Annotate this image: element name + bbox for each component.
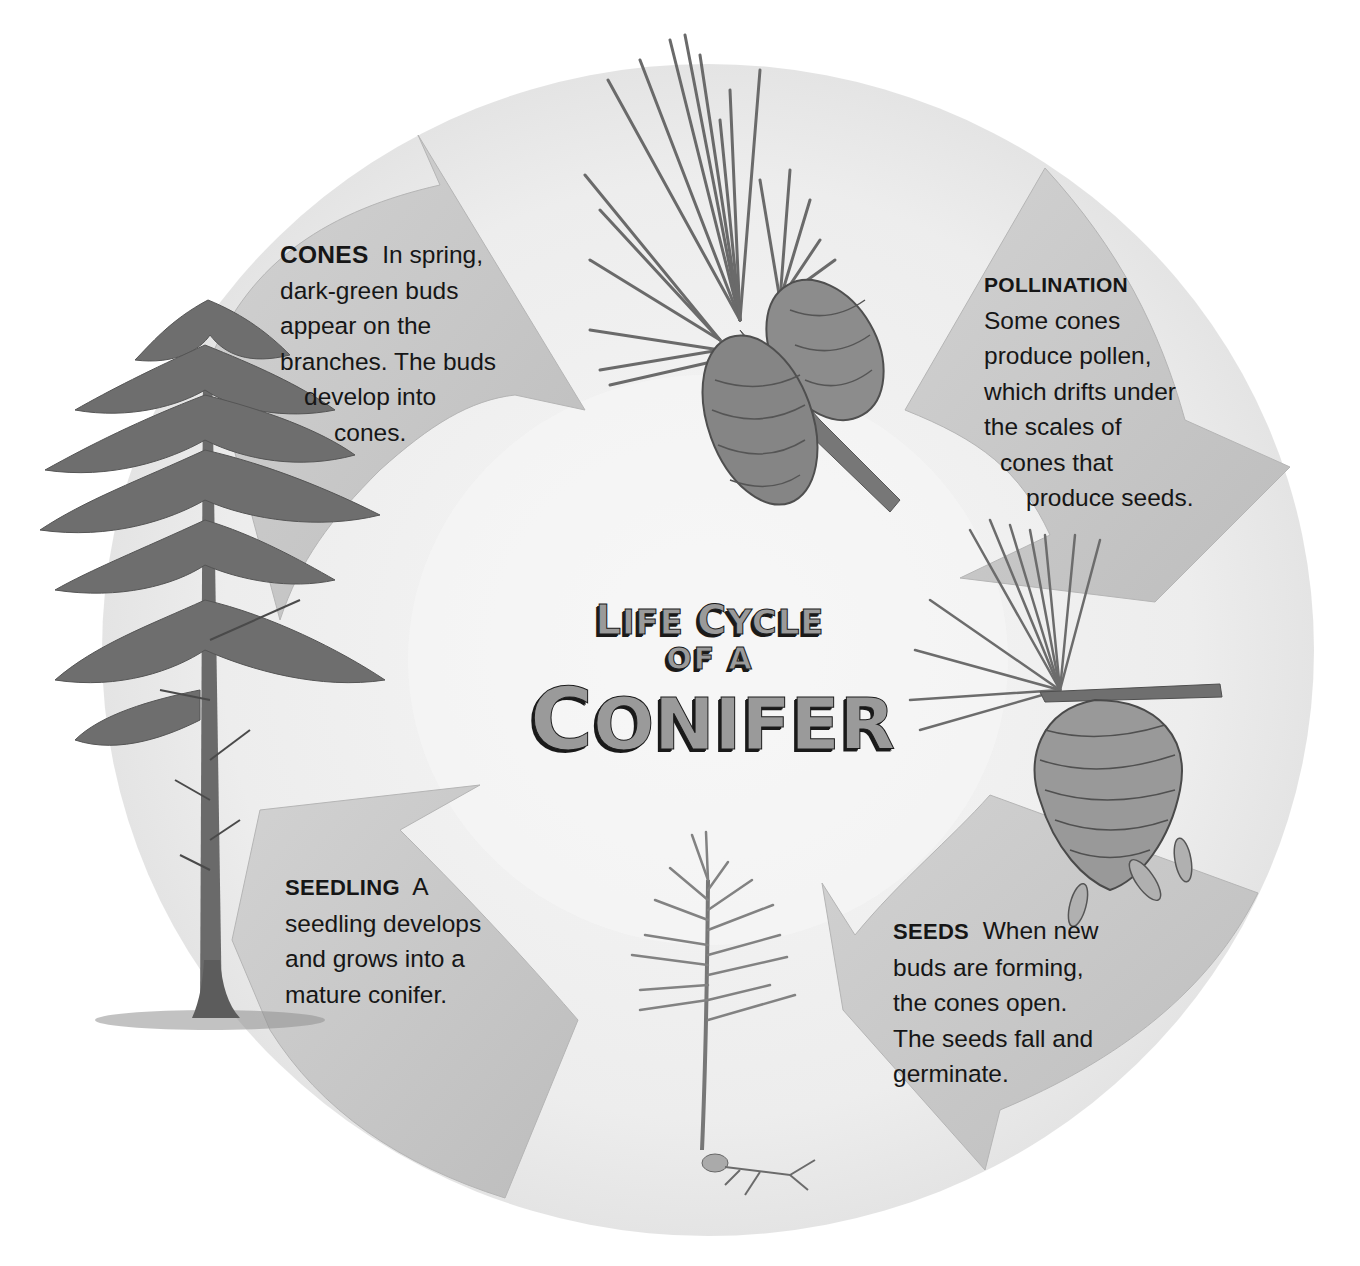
stage-cones-text-line: cones. <box>280 415 496 451</box>
stage-cones-heading: CONES <box>280 241 369 268</box>
title-word: IFE <box>622 602 684 642</box>
stage-seeds-text-line: When new <box>983 917 1099 944</box>
stage-seeds-text-line: buds are forming, <box>893 950 1098 986</box>
stage-pollination-text: POLLINATION Some cones produce pollen, w… <box>984 267 1194 516</box>
stage-seeds-text-line: The seeds fall and <box>893 1021 1098 1057</box>
stage-pollination-heading: POLLINATION <box>984 267 1194 303</box>
title-word: ONIFER <box>593 682 895 766</box>
stage-seeds-text-line: germinate. <box>893 1056 1098 1092</box>
stage-seedling-text-line: and grows into a <box>285 941 481 977</box>
title-cap: C <box>530 669 593 769</box>
diagram-title: LIFE CYCLE OF A CONIFER <box>530 600 890 762</box>
stage-seeds-heading: SEEDS <box>893 919 969 944</box>
title-line-3: CONIFER <box>530 676 890 762</box>
stage-cones-text-line: appear on the <box>280 308 496 344</box>
stage-seeds-text: SEEDS When new buds are forming, the con… <box>893 913 1098 1092</box>
title-line-1: LIFE CYCLE <box>530 600 890 640</box>
stage-pollination-text-line: cones that <box>984 445 1194 481</box>
stage-pollination-text-line: produce seeds. <box>984 480 1194 516</box>
stage-seedling-line-1: SEEDLING A <box>285 869 481 906</box>
stage-cones-text-line: In spring, <box>382 241 483 268</box>
title-cap: L <box>595 597 622 643</box>
stage-cones-text-line: dark-green buds <box>280 273 496 309</box>
stage-cones-text: CONES In spring, dark-green buds appear … <box>280 237 496 450</box>
stage-pollination-text-line: which drifts under <box>984 374 1194 410</box>
stage-seedling-text-line: mature conifer. <box>285 977 481 1013</box>
stage-seeds-text-line: the cones open. <box>893 985 1098 1021</box>
open-cone-releasing-seeds-icon <box>910 520 1222 928</box>
stage-seedling-text-line: A <box>412 873 428 900</box>
title-cap: C <box>697 597 727 643</box>
conifer-life-cycle-diagram: CONES In spring, dark-green buds appear … <box>0 0 1360 1266</box>
title-word: YCLE <box>727 602 824 642</box>
stage-cones-line-1: CONES In spring, <box>280 237 496 273</box>
stage-pollination-text-line: Some cones <box>984 303 1194 339</box>
stage-seedling-text: SEEDLING A seedling develops and grows i… <box>285 869 481 1012</box>
stage-seedling-heading: SEEDLING <box>285 875 400 900</box>
stage-cones-text-line: branches. The buds <box>280 344 496 380</box>
stage-pollination-text-line: the scales of <box>984 409 1194 445</box>
stage-seeds-line-1: SEEDS When new <box>893 913 1098 950</box>
seedling-icon <box>632 832 815 1195</box>
pine-branch-with-cones-icon <box>585 35 908 520</box>
stage-pollination-text-line: produce pollen, <box>984 338 1194 374</box>
stage-seedling-text-line: seedling develops <box>285 906 481 942</box>
stage-cones-text-line: develop into <box>280 379 496 415</box>
